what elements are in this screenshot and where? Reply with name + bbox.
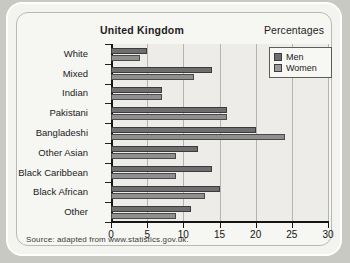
- y-axis-tick: [105, 202, 111, 203]
- chart-legend: Men Women: [269, 47, 332, 78]
- category-label: White: [64, 49, 88, 59]
- x-axis-tick: [256, 223, 257, 228]
- bar-men-other: [111, 206, 191, 212]
- square-swatch-icon: [274, 64, 282, 72]
- x-axis-tick: [111, 223, 112, 228]
- bar-women-mixed: [111, 74, 194, 80]
- bar-women-other-asian: [111, 153, 176, 159]
- bar-women-black-caribbean: [111, 173, 176, 179]
- x-axis-tick: [328, 223, 329, 228]
- y-axis-tick: [105, 44, 111, 45]
- category-label: Other Asian: [38, 148, 88, 158]
- bar-women-bangladeshi: [111, 134, 285, 140]
- x-axis-tick-label: 30: [313, 229, 343, 240]
- x-axis-tick: [292, 223, 293, 228]
- category-label: Bangladeshi: [36, 128, 88, 138]
- bar-men-indian: [111, 87, 162, 93]
- bar-men-mixed: [111, 67, 212, 73]
- legend-item-men: Men: [274, 51, 327, 62]
- chart-card: United Kingdom Percentages 051015202530 …: [6, 2, 342, 256]
- bar-men-black-african: [111, 186, 220, 192]
- bar-women-pakistani: [111, 114, 227, 120]
- square-swatch-icon: [274, 53, 282, 61]
- bar-men-black-caribbean: [111, 166, 212, 172]
- x-axis-tick: [183, 223, 184, 228]
- y-axis-tick: [105, 84, 111, 85]
- category-label: Black Caribbean: [18, 168, 88, 178]
- legend-item-label: Women: [286, 63, 317, 73]
- category-label: Black African: [33, 187, 88, 197]
- category-label: Pakistani: [49, 108, 88, 118]
- bar-men-white: [111, 48, 147, 54]
- bar-men-bangladeshi: [111, 127, 256, 133]
- unit-label: Percentages: [264, 24, 324, 36]
- y-axis-tick: [105, 123, 111, 124]
- bar-women-other: [111, 213, 176, 219]
- x-axis-tick-label: 15: [205, 229, 235, 240]
- x-axis-tick-label: 25: [277, 229, 307, 240]
- y-axis-tick: [105, 64, 111, 65]
- bar-women-indian: [111, 94, 162, 100]
- y-axis-tick: [105, 103, 111, 104]
- category-label: Mixed: [63, 69, 88, 79]
- legend-item-women: Women: [274, 62, 327, 73]
- source-note: Source: adapted from www.statistics.gov.…: [26, 235, 189, 244]
- x-axis-tick: [147, 223, 148, 228]
- bar-men-pakistani: [111, 107, 227, 113]
- bar-men-other-asian: [111, 146, 198, 152]
- x-axis-tick-label: 20: [241, 229, 271, 240]
- category-label: Other: [64, 207, 88, 217]
- gridline: [256, 44, 257, 222]
- category-label: Indian: [62, 88, 88, 98]
- legend-item-label: Men: [286, 52, 304, 62]
- gridline: [220, 44, 221, 222]
- y-axis-tick: [105, 143, 111, 144]
- bar-women-white: [111, 55, 140, 61]
- x-axis-tick: [220, 223, 221, 228]
- y-axis-tick: [105, 163, 111, 164]
- page-title: United Kingdom: [72, 24, 212, 36]
- bar-women-black-african: [111, 193, 205, 199]
- y-axis-tick: [105, 182, 111, 183]
